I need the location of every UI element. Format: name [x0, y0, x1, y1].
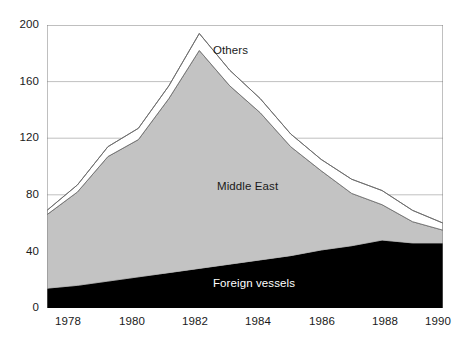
y-axis-tick-160: 160: [5, 75, 39, 87]
x-axis-tick-1982: 1982: [175, 315, 215, 327]
series-label-middle-east: Middle East: [217, 180, 278, 192]
stacked-area-chart: 200 160 120 80 40 0 1978 1980 1982 1984 …: [0, 0, 458, 341]
series-label-others: Others: [213, 44, 248, 56]
y-axis-tick-200: 200: [5, 18, 39, 30]
area-series-group: [47, 33, 443, 308]
series-label-foreign-vessels: Foreign vessels: [213, 277, 295, 289]
y-axis-tick-80: 80: [5, 188, 39, 200]
x-axis-tick-1980: 1980: [112, 315, 152, 327]
x-axis-tick-1978: 1978: [48, 315, 88, 327]
x-axis-tick-1986: 1986: [302, 315, 342, 327]
y-axis-tick-0: 0: [5, 301, 39, 313]
y-axis-tick-120: 120: [5, 131, 39, 143]
plot-area: [47, 25, 443, 308]
x-axis-tick-1988: 1988: [365, 315, 405, 327]
x-axis-tick-1990: 1990: [418, 315, 458, 327]
plot-svg: [47, 25, 443, 308]
y-axis-tick-40: 40: [5, 245, 39, 257]
x-axis-tick-1984: 1984: [238, 315, 278, 327]
